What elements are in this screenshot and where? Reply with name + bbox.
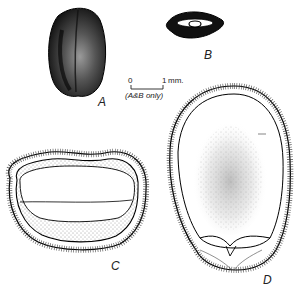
seed-illustration	[0, 0, 295, 289]
panel-a-seed	[49, 8, 106, 96]
panel-label-c: C	[111, 260, 120, 272]
panel-c-section	[9, 152, 146, 250]
panel-label-b: B	[204, 49, 212, 61]
panel-d-section	[170, 86, 291, 270]
panel-b-section	[166, 12, 223, 38]
scale-start-label: 0	[128, 77, 132, 85]
panel-label-d: D	[263, 274, 272, 286]
scale-bar	[131, 85, 163, 89]
scale-unit-label: mm.	[168, 77, 184, 85]
scale-end-label: 1	[162, 77, 166, 85]
scale-caption: (A&B only)	[125, 92, 163, 100]
panel-label-a: A	[98, 96, 106, 108]
